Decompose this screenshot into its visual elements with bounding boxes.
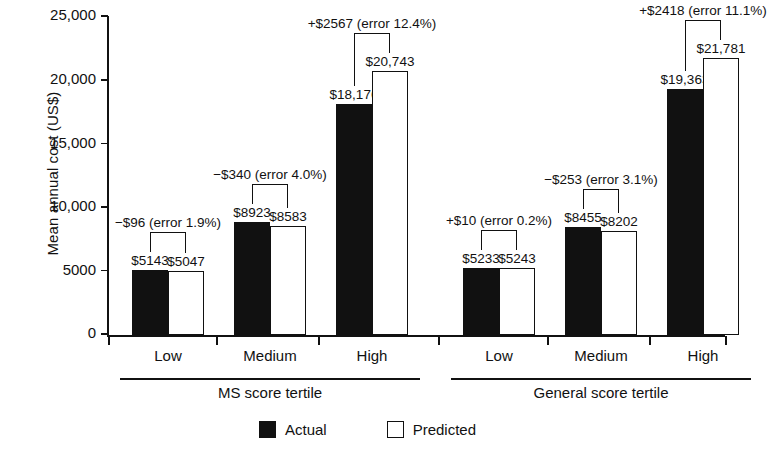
bar-value-label: $20,743 — [366, 54, 415, 69]
bracket-icon: −$96 (error 1.9%) — [150, 232, 186, 245]
bar-actual: $19,363 — [667, 89, 703, 335]
bracket-stem-right — [185, 245, 186, 253]
y-axis-tick: 0 — [101, 333, 108, 335]
tertile-label-ms-medium: Medium — [243, 347, 296, 364]
bar-value-label: $5047 — [167, 254, 205, 269]
bracket-icon: +$2418 (error 11.1%) — [685, 20, 721, 33]
difference-label: −$253 (error 3.1%) — [544, 172, 658, 187]
difference-annotation: +$2418 (error 11.1%) — [685, 19, 721, 33]
bar-predicted: $21,781 — [703, 58, 739, 335]
bracket-stem-right — [720, 33, 721, 40]
x-axis-tick — [547, 336, 549, 345]
bar-actual: $5233 — [463, 268, 499, 335]
tertile-label-ms-high: High — [357, 347, 388, 364]
bracket-stem-left — [481, 243, 482, 250]
y-axis-tick: 20,000 — [101, 79, 108, 81]
bracket-icon: +$2567 (error 12.4%) — [354, 33, 390, 46]
y-axis-tick: 10,000 — [101, 206, 108, 208]
difference-label: −$96 (error 1.9%) — [115, 215, 221, 230]
x-axis-tick — [649, 336, 651, 345]
group-rule — [120, 378, 420, 380]
bracket-stem-left — [150, 245, 151, 252]
difference-annotation: +$2567 (error 12.4%) — [354, 32, 390, 46]
legend-item-predicted: Predicted — [387, 421, 476, 438]
bar-predicted: $8202 — [601, 231, 637, 335]
bar-actual: $8923 — [234, 222, 270, 336]
legend-label-predicted: Predicted — [413, 421, 476, 438]
tertile-label-general-medium: Medium — [574, 347, 627, 364]
bar-predicted: $20,743 — [372, 71, 408, 335]
bar-actual: $5143 — [132, 270, 168, 335]
bracket-stem-right — [287, 197, 288, 208]
x-axis-tick — [725, 336, 727, 345]
difference-annotation: −$340 (error 4.0%) — [252, 183, 288, 197]
bracket-stem-left — [252, 197, 253, 204]
hollow-square-icon — [387, 421, 404, 438]
bar-value-label: $5143 — [131, 253, 169, 268]
y-axis-tick-label: 15,000 — [50, 134, 96, 151]
filled-square-icon — [259, 421, 276, 438]
group-title-ms: MS score tertile — [218, 384, 322, 401]
group-title-general: General score tertile — [533, 384, 668, 401]
difference-label: +$2567 (error 12.4%) — [308, 16, 437, 31]
bar-value-label: $5233 — [462, 251, 500, 266]
bar-value-label: $8455 — [564, 210, 602, 225]
bar-value-label: $21,781 — [697, 41, 746, 56]
y-axis-title: Mean annual cost (US$) — [44, 24, 61, 324]
difference-annotation: −$96 (error 1.9%) — [150, 231, 186, 245]
legend-label-actual: Actual — [285, 421, 327, 438]
group-rule — [451, 378, 751, 380]
chart-legend: Actual Predicted — [0, 421, 735, 438]
bar-value-label: $5243 — [498, 251, 536, 266]
bracket-icon: −$340 (error 4.0%) — [252, 184, 288, 197]
y-axis-tick-label: 20,000 — [50, 70, 96, 87]
bracket-stem-left — [354, 46, 355, 86]
bar-actual: $8455 — [565, 227, 601, 335]
y-axis-tick: 5000 — [101, 270, 108, 272]
y-axis-tick-label: 10,000 — [50, 197, 96, 214]
bracket-stem-right — [516, 243, 517, 250]
bracket-stem-right — [618, 202, 619, 212]
tertile-label-ms-low: Low — [154, 347, 182, 364]
bracket-stem-left — [583, 202, 584, 209]
plot-area: 0500010,00015,00020,00025,000$5143$5047−… — [108, 17, 725, 335]
bar-predicted: $8583 — [270, 226, 306, 335]
y-axis-tick: 15,000 — [101, 143, 108, 145]
bar-value-label: $8202 — [600, 214, 638, 229]
difference-annotation: +$10 (error 0.2%) — [481, 229, 517, 243]
bracket-stem-right — [389, 46, 390, 53]
bar-predicted: $5047 — [168, 271, 204, 335]
tertile-label-general-low: Low — [485, 347, 513, 364]
bar-value-label: $8923 — [233, 205, 271, 220]
difference-label: +$2418 (error 11.1%) — [639, 3, 767, 18]
x-axis-tick — [438, 336, 440, 345]
legend-item-actual: Actual — [259, 421, 327, 438]
y-axis-tick-label: 0 — [88, 324, 96, 341]
bar-actual: $18,176 — [336, 104, 372, 335]
bracket-stem-left — [685, 33, 686, 71]
y-axis-tick: 25,000 — [101, 15, 108, 17]
difference-annotation: −$253 (error 3.1%) — [583, 188, 619, 202]
difference-label: +$10 (error 0.2%) — [446, 213, 552, 228]
bracket-icon: −$253 (error 3.1%) — [583, 189, 619, 202]
x-axis-tick — [108, 336, 110, 345]
y-axis-tick-label: 25,000 — [50, 6, 96, 23]
x-axis-tick — [216, 336, 218, 345]
x-axis-tick — [318, 336, 320, 345]
tertile-label-general-high: High — [688, 347, 719, 364]
y-axis-tick-label: 5000 — [63, 261, 96, 278]
x-axis-line — [107, 335, 725, 337]
bracket-icon: +$10 (error 0.2%) — [481, 230, 517, 243]
difference-label: −$340 (error 4.0%) — [213, 167, 327, 182]
bar-predicted: $5243 — [499, 268, 535, 335]
bar-value-label: $8583 — [269, 209, 307, 224]
